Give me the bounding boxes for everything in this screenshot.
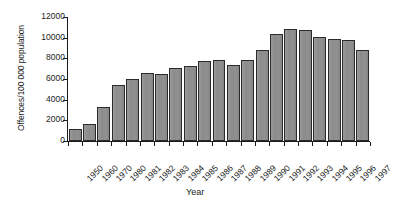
bar-1984 xyxy=(169,68,182,141)
x-tick-mark xyxy=(68,142,69,146)
x-tick-mark xyxy=(241,142,242,146)
bar-1985 xyxy=(184,66,197,141)
x-tick-mark xyxy=(126,142,127,146)
y-tick-label: 4000 xyxy=(46,94,65,105)
bar-1982 xyxy=(141,73,154,141)
x-tick-mark xyxy=(269,142,270,146)
x-tick-mark xyxy=(197,142,198,146)
x-tick-mark xyxy=(212,142,213,146)
bar-1981 xyxy=(126,79,139,141)
y-tick-label: 6000 xyxy=(46,73,65,84)
x-tick-mark xyxy=(140,142,141,146)
x-tick-mark xyxy=(341,142,342,146)
bar-1983 xyxy=(155,74,168,141)
x-tick-mark xyxy=(356,142,357,146)
bar-1960 xyxy=(83,124,96,141)
y-axis-title: Offences/100 000 population xyxy=(14,4,28,152)
bar-1950 xyxy=(69,129,82,141)
x-tick-mark xyxy=(298,142,299,146)
x-tick-mark xyxy=(312,142,313,146)
y-tick-label: 10000 xyxy=(41,32,65,43)
x-tick-mark xyxy=(169,142,170,146)
x-axis-line xyxy=(67,141,370,142)
bar-1970 xyxy=(97,107,110,141)
bar-1980 xyxy=(112,85,125,141)
x-tick-mark xyxy=(370,142,371,146)
y-tick-label: 8000 xyxy=(46,52,65,63)
x-tick-mark xyxy=(97,142,98,146)
x-tick-mark xyxy=(154,142,155,146)
x-tick-label-1997: 1997 xyxy=(372,163,392,183)
x-axis-title: Year xyxy=(186,186,204,198)
x-tick-mark xyxy=(183,142,184,146)
x-tick-mark xyxy=(111,142,112,146)
y-tick-label: 0 xyxy=(60,135,65,146)
x-tick-mark xyxy=(327,142,328,146)
y-tick-label: 12000 xyxy=(41,11,65,22)
y-tick-label: 2000 xyxy=(46,114,65,125)
x-tick-mark xyxy=(284,142,285,146)
x-tick-mark xyxy=(82,142,83,146)
x-tick-mark xyxy=(226,142,227,146)
x-axis-tick-labels: 1950196019701980198119821983198419851986… xyxy=(68,17,370,77)
x-tick-mark xyxy=(255,142,256,146)
